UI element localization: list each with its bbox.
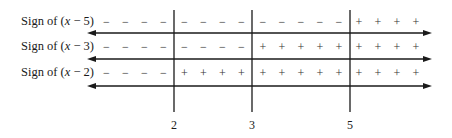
- minus-sign: −: [199, 41, 209, 53]
- plus-sign: +: [258, 67, 268, 79]
- plus-sign: +: [237, 67, 247, 79]
- minus-sign: −: [315, 16, 325, 28]
- minus-sign: −: [218, 41, 228, 53]
- row-label-3: Sign of (x − 2): [21, 66, 94, 79]
- plus-sign: +: [334, 67, 344, 79]
- plus-sign: +: [392, 41, 402, 53]
- minus-sign: −: [199, 16, 209, 28]
- plus-sign: +: [315, 67, 325, 79]
- arrow-right-icon: [423, 30, 432, 36]
- number-line-row-1: [87, 30, 432, 36]
- plus-sign: +: [354, 41, 364, 53]
- sign-chart: Sign of (x − 5)Sign of (x − 3)Sign of (x…: [0, 0, 452, 138]
- plus-sign: +: [373, 16, 383, 28]
- critical-point-label-2: 2: [171, 119, 177, 131]
- minus-sign: −: [140, 41, 150, 53]
- number-line-row-2: [87, 56, 432, 62]
- minus-sign: −: [237, 41, 247, 53]
- arrow-left-icon: [87, 83, 96, 89]
- minus-sign: −: [140, 16, 150, 28]
- minus-sign: −: [218, 16, 228, 28]
- minus-sign: −: [159, 41, 169, 53]
- minus-sign: −: [140, 67, 150, 79]
- minus-sign: −: [121, 16, 131, 28]
- plus-sign: +: [411, 16, 421, 28]
- minus-sign: −: [237, 16, 247, 28]
- minus-sign: −: [102, 67, 112, 79]
- minus-sign: −: [258, 16, 268, 28]
- plus-sign: +: [334, 41, 344, 53]
- minus-sign: −: [296, 16, 306, 28]
- critical-point-label-5: 5: [347, 119, 353, 131]
- minus-sign: −: [277, 16, 287, 28]
- minus-sign: −: [334, 16, 344, 28]
- plus-sign: +: [373, 41, 383, 53]
- arrow-right-icon: [423, 56, 432, 62]
- minus-sign: −: [121, 41, 131, 53]
- plus-sign: +: [218, 67, 228, 79]
- critical-point-label-3: 3: [249, 119, 255, 131]
- arrow-left-icon: [87, 56, 96, 62]
- plus-sign: +: [199, 67, 209, 79]
- row-label-1: Sign of (x − 5): [21, 15, 94, 28]
- plus-sign: +: [296, 67, 306, 79]
- plus-sign: +: [411, 41, 421, 53]
- minus-sign: −: [121, 67, 131, 79]
- plus-sign: +: [315, 41, 325, 53]
- plus-sign: +: [296, 41, 306, 53]
- plus-sign: +: [411, 67, 421, 79]
- plus-sign: +: [180, 67, 190, 79]
- arrow-left-icon: [87, 30, 96, 36]
- plus-sign: +: [277, 67, 287, 79]
- plus-sign: +: [354, 67, 364, 79]
- minus-sign: −: [102, 41, 112, 53]
- minus-sign: −: [180, 41, 190, 53]
- plus-sign: +: [392, 67, 402, 79]
- plus-sign: +: [354, 16, 364, 28]
- plus-sign: +: [392, 16, 402, 28]
- arrow-right-icon: [423, 83, 432, 89]
- plus-sign: +: [258, 41, 268, 53]
- minus-sign: −: [180, 16, 190, 28]
- minus-sign: −: [159, 67, 169, 79]
- row-label-2: Sign of (x − 3): [21, 40, 94, 53]
- number-line-row-3: [87, 83, 432, 89]
- plus-sign: +: [373, 67, 383, 79]
- minus-sign: −: [159, 16, 169, 28]
- plus-sign: +: [277, 41, 287, 53]
- minus-sign: −: [102, 16, 112, 28]
